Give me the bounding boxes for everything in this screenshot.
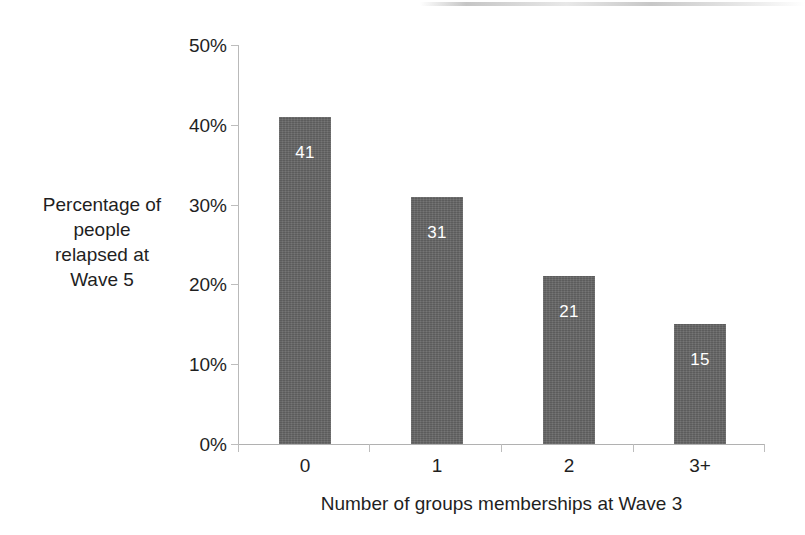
- bar-value-1: 31: [411, 224, 463, 241]
- y-axis-title-line-3: relapsed at: [26, 242, 178, 267]
- bar-chart-figure: Percentage of people relapsed at Wave 5 …: [0, 0, 805, 535]
- x-category-label-3: 3+: [640, 456, 760, 475]
- y-axis-title-line-2: people: [26, 217, 178, 242]
- x-category-label-0: 0: [245, 456, 365, 475]
- y-tick-label-10: 10%: [189, 355, 227, 374]
- x-tick-4: [764, 444, 765, 452]
- y-axis-title: Percentage of people relapsed at Wave 5: [26, 192, 178, 292]
- scan-artifact: [420, 2, 805, 6]
- x-category-label-2: 2: [509, 456, 629, 475]
- bar-category-3[interactable]: 15: [674, 324, 726, 444]
- y-tick-label-20: 20%: [189, 275, 227, 294]
- x-tick-0: [238, 444, 239, 452]
- x-tick-3: [633, 444, 634, 452]
- x-axis-title: Number of groups memberships at Wave 3: [238, 494, 765, 513]
- bar-category-1[interactable]: 31: [411, 197, 463, 444]
- bar-category-0[interactable]: 41: [279, 117, 331, 444]
- bar-category-2[interactable]: 21: [543, 276, 595, 444]
- y-tick-label-0: 0%: [200, 435, 227, 454]
- y-axis-title-line-4: Wave 5: [26, 267, 178, 292]
- bar-value-2: 21: [543, 303, 595, 320]
- y-tick-label-50: 50%: [189, 36, 227, 55]
- bar-value-0: 41: [279, 144, 331, 161]
- y-tick-label-40: 40%: [189, 115, 227, 134]
- y-tick-label-30: 30%: [189, 195, 227, 214]
- x-tick-1: [369, 444, 370, 452]
- x-category-label-1: 1: [377, 456, 497, 475]
- bar-value-3: 15: [674, 351, 726, 368]
- x-tick-2: [501, 444, 502, 452]
- plot-area: 50% 40% 30% 20% 10% 0% 41: [238, 45, 765, 444]
- y-axis-title-line-1: Percentage of: [26, 192, 178, 217]
